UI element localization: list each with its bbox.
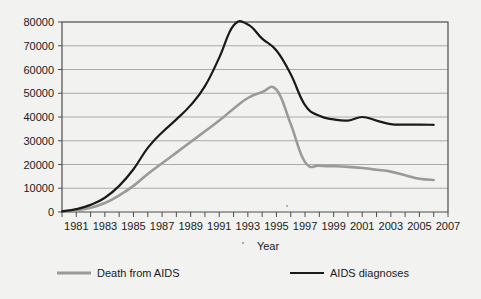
- chart-container: 0100002000030000400005000060000700008000…: [0, 0, 481, 299]
- y-tick-label: 30000: [23, 135, 54, 147]
- x-tick-label: 1993: [236, 220, 260, 232]
- x-tick-label: 2003: [379, 220, 403, 232]
- x-tick-label: 2007: [436, 220, 460, 232]
- x-tick-label: 1981: [64, 220, 88, 232]
- scan-speck-2: [286, 205, 288, 207]
- legend-label: AIDS diagnoses: [330, 267, 409, 279]
- x-tick-label: 1985: [121, 220, 145, 232]
- y-tick-label: 0: [48, 206, 54, 218]
- y-tick-label: 60000: [23, 64, 54, 76]
- y-tick-label: 20000: [23, 159, 54, 171]
- scan-speck-1: [242, 242, 244, 244]
- x-tick-label: 1991: [207, 220, 231, 232]
- x-tick-label: 1999: [321, 220, 345, 232]
- series-line-death-from-aids: [62, 87, 434, 212]
- x-tick-label: 1997: [293, 220, 317, 232]
- x-tick-label: 1987: [150, 220, 174, 232]
- line-chart: 0100002000030000400005000060000700008000…: [0, 0, 481, 299]
- series-line-aids-diagnoses: [62, 21, 434, 211]
- y-tick-label: 70000: [23, 40, 54, 52]
- x-axis-ticks: [62, 212, 448, 217]
- data-series: [62, 21, 434, 211]
- y-tick-label: 50000: [23, 87, 54, 99]
- x-axis-title: Year: [257, 240, 280, 252]
- x-tick-label: 1989: [178, 220, 202, 232]
- x-tick-label: 1983: [93, 220, 117, 232]
- y-axis-tick-labels: 0100002000030000400005000060000700008000…: [23, 16, 54, 218]
- x-tick-label: 1995: [264, 220, 288, 232]
- x-tick-label: 2005: [407, 220, 431, 232]
- chart-legend: Death from AIDSAIDS diagnoses: [57, 267, 409, 279]
- x-axis-tick-labels: 1981198319851987198919911993199519971999…: [64, 220, 460, 232]
- y-tick-label: 10000: [23, 182, 54, 194]
- y-tick-label: 80000: [23, 16, 54, 28]
- gridlines: [62, 22, 448, 188]
- legend-label: Death from AIDS: [97, 267, 180, 279]
- y-tick-label: 40000: [23, 111, 54, 123]
- x-tick-label: 2001: [350, 220, 374, 232]
